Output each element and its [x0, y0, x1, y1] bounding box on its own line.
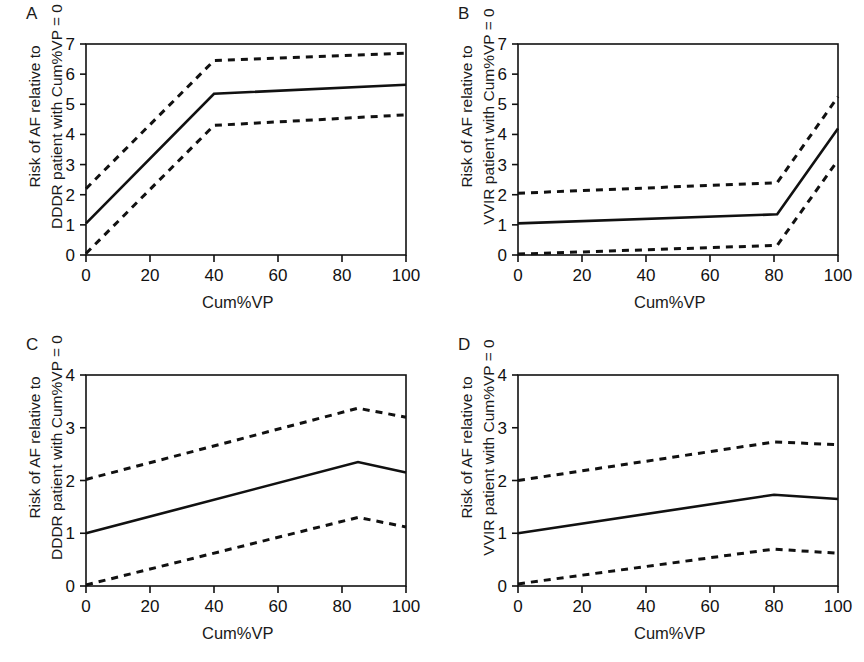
x-tick-label: 0: [81, 597, 90, 616]
x-tick-label: 0: [513, 597, 522, 616]
series-line-estimate: [518, 128, 838, 223]
x-tick-label: 40: [205, 266, 224, 285]
panel-a: A DDDR patient with Cum%VP = 0 Risk of A…: [0, 0, 432, 331]
y-tick-label: 7: [66, 35, 75, 54]
series-line-lower-95-ci: [86, 115, 406, 254]
x-tick-label: 80: [333, 266, 352, 285]
y-tick-label: 5: [498, 95, 507, 114]
x-tick-label: 80: [765, 597, 784, 616]
x-tick-label: 20: [573, 597, 592, 616]
y-tick-label: 2: [498, 472, 507, 491]
y-tick-label: 2: [66, 186, 75, 205]
plot-area-a: 01234567020406080100: [0, 0, 432, 331]
x-tick-label: 100: [824, 597, 852, 616]
y-tick-label: 7: [498, 35, 507, 54]
y-tick-label: 6: [66, 65, 75, 84]
series-line-upper-95-ci: [518, 442, 838, 481]
series-line-lower-95-ci: [86, 517, 406, 585]
y-tick-label: 3: [66, 419, 75, 438]
x-tick-label: 40: [205, 597, 224, 616]
x-tick-label: 0: [81, 266, 90, 285]
y-tick-label: 3: [498, 156, 507, 175]
x-tick-label: 60: [701, 266, 720, 285]
y-tick-label: 2: [498, 186, 507, 205]
y-tick-label: 2: [66, 472, 75, 491]
series-line-lower-95-ci: [518, 160, 838, 254]
y-tick-label: 1: [498, 524, 507, 543]
y-tick-label: 1: [66, 216, 75, 235]
x-tick-label: 0: [513, 266, 522, 285]
x-tick-label: 60: [269, 266, 288, 285]
x-tick-label: 60: [269, 597, 288, 616]
plot-area-c: 01234020406080100: [0, 331, 432, 662]
x-tick-label: 80: [765, 266, 784, 285]
y-tick-label: 0: [498, 246, 507, 265]
axis-frame: [86, 44, 406, 255]
y-tick-label: 4: [66, 125, 75, 144]
x-axis-label-d: Cum%VP: [634, 624, 706, 643]
x-axis-label-b: Cum%VP: [634, 293, 706, 312]
panel-c: C DDDR patient with Cum%VP = 0 Risk of A…: [0, 331, 432, 662]
y-tick-label: 3: [66, 156, 75, 175]
x-tick-label: 20: [141, 597, 160, 616]
series-line-upper-95-ci: [86, 408, 406, 479]
series-line-upper-95-ci: [86, 53, 406, 189]
axis-frame: [518, 375, 838, 586]
axis-frame: [518, 44, 838, 255]
series-line-lower-95-ci: [518, 549, 838, 584]
x-tick-label: 20: [573, 266, 592, 285]
series-line-estimate: [86, 462, 406, 533]
series-line-estimate: [86, 85, 406, 224]
y-tick-label: 5: [66, 95, 75, 114]
y-tick-label: 3: [498, 419, 507, 438]
x-tick-label: 100: [392, 266, 420, 285]
x-tick-label: 40: [637, 266, 656, 285]
x-tick-label: 60: [701, 597, 720, 616]
y-tick-label: 0: [66, 577, 75, 596]
x-tick-label: 40: [637, 597, 656, 616]
y-tick-label: 4: [498, 366, 507, 385]
x-tick-label: 20: [141, 266, 160, 285]
x-tick-label: 100: [824, 266, 852, 285]
y-tick-label: 1: [66, 524, 75, 543]
series-line-estimate: [518, 495, 838, 534]
panel-b: B VVIR patient with Cum%VP = 0 Risk of A…: [432, 0, 864, 331]
figure-canvas: A DDDR patient with Cum%VP = 0 Risk of A…: [0, 0, 864, 662]
plot-area-b: 01234567020406080100: [432, 0, 864, 331]
x-tick-label: 100: [392, 597, 420, 616]
series-line-upper-95-ci: [518, 97, 838, 193]
y-tick-label: 4: [498, 125, 507, 144]
y-tick-label: 6: [498, 65, 507, 84]
y-tick-label: 4: [66, 366, 75, 385]
plot-area-d: 01234020406080100: [432, 331, 864, 662]
x-tick-label: 80: [333, 597, 352, 616]
x-axis-label-c: Cum%VP: [202, 624, 274, 643]
y-tick-label: 0: [498, 577, 507, 596]
y-tick-label: 0: [66, 246, 75, 265]
panel-d: D VVIR patient with Cum%VP = 0 Risk of A…: [432, 331, 864, 662]
x-axis-label-a: Cum%VP: [202, 293, 274, 312]
y-tick-label: 1: [498, 216, 507, 235]
axis-frame: [86, 375, 406, 586]
